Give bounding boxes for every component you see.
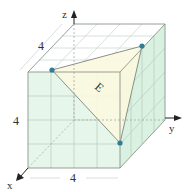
x-axis-label: x — [7, 179, 13, 191]
cube-diagram: z y x 4 4 4 E — [0, 0, 187, 192]
z-axis-label: z — [62, 8, 67, 20]
front-height-label: 4 — [13, 114, 19, 128]
y-arrow-icon — [174, 115, 182, 121]
y-axis — [165, 115, 182, 121]
top-depth-label: 4 — [38, 39, 44, 53]
vertex-point-1 — [49, 67, 54, 72]
x-axis — [16, 168, 28, 181]
vertex-point-3 — [117, 140, 122, 145]
front-width-label: 4 — [70, 171, 76, 185]
y-axis-label: y — [169, 122, 175, 134]
z-axis — [71, 10, 77, 24]
z-arrow-icon — [71, 10, 77, 18]
vertex-point-2 — [139, 43, 144, 48]
